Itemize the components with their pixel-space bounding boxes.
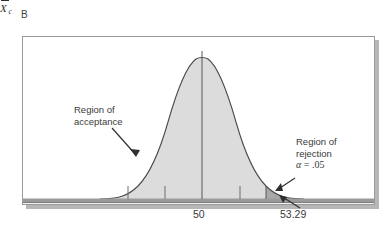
baseline-axis-shadow xyxy=(23,202,374,204)
region-of-acceptance-label: Region of acceptance xyxy=(74,104,123,127)
region-of-rejection-label: Region of rejection α = .05 xyxy=(296,136,337,171)
x-bar-symbol: X xyxy=(0,0,9,14)
critical-tick-label: 53.29 xyxy=(280,209,306,221)
distribution-plot xyxy=(0,0,392,235)
alpha-value: = .05 xyxy=(301,159,324,170)
rejection-label-line1: Region of xyxy=(296,136,337,148)
acceptance-leader-arrow xyxy=(112,128,140,157)
rejection-leader-arrow xyxy=(275,178,295,191)
mean-tick-label: 50 xyxy=(193,209,205,221)
critical-symbol-base: X xyxy=(0,2,7,14)
rejection-label-line2: rejection xyxy=(296,148,337,160)
acceptance-label-line2: acceptance xyxy=(74,116,123,128)
alpha-level-row: α = .05 xyxy=(296,159,337,171)
baseline-axis xyxy=(23,199,374,202)
acceptance-label-line1: Region of xyxy=(74,104,123,116)
figure-panel-b: B xyxy=(0,0,392,235)
